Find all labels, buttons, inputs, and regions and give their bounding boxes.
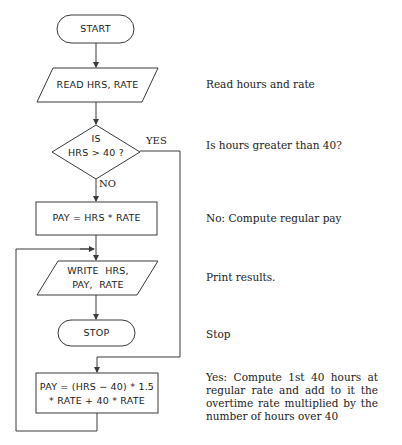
read-label: READ HRS, RATE: [37, 78, 158, 92]
annotation-regular-pay: No: Compute regular pay: [206, 212, 342, 225]
annotation-decision: Is hours greater than 40?: [206, 139, 342, 152]
annotation-write: Print results.: [206, 271, 275, 284]
annotation-stop: Stop: [206, 328, 230, 341]
no-branch-label: NO: [99, 178, 116, 189]
regular-pay-label: PAY = HRS * RATE: [36, 211, 157, 225]
stop-label: STOP: [58, 326, 135, 340]
write-label-line2: PAY, RATE: [42, 278, 154, 292]
start-label: START: [57, 22, 134, 36]
yes-branch-label: YES: [146, 135, 167, 146]
write-label-line1: WRITE HRS,: [42, 264, 154, 278]
decision-label-line1: IS: [56, 132, 136, 146]
flowchart-canvas: START READ HRS, RATE IS HRS > 40 ? YES N…: [0, 0, 402, 445]
annotation-read: Read hours and rate: [206, 78, 315, 91]
annotation-overtime-pay: Yes: Compute 1st 40 hours at regular rat…: [206, 371, 378, 423]
decision-label-line2: HRS > 40 ?: [56, 146, 136, 160]
overtime-pay-label-line1: PAY = (HRS − 40) * 1.5: [36, 380, 158, 394]
overtime-pay-label-line2: * RATE + 40 * RATE: [36, 394, 158, 408]
